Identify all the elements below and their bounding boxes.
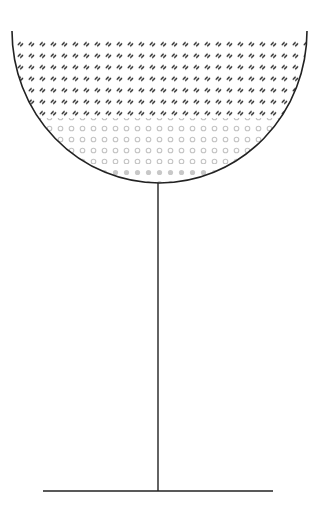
top-liquid-layer	[14, 36, 306, 118]
bottom-liquid-layer-dots	[14, 164, 306, 184]
liquid	[14, 36, 306, 184]
glass-diagram	[0, 0, 313, 522]
